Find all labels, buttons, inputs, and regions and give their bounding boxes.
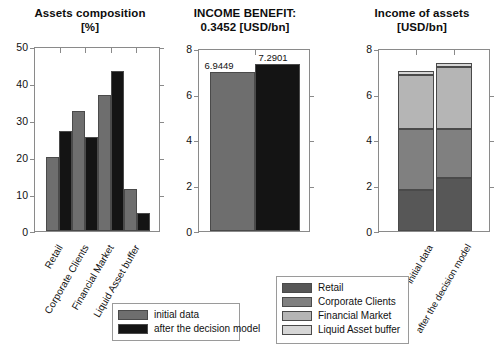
- legend-label-liquid-asset-buffer: Liquid Asset buffer: [318, 324, 400, 335]
- stack-initial-data: [398, 72, 434, 231]
- chart2-ytick-0: [194, 232, 199, 233]
- legend-swatch-corporate-clients: [282, 297, 312, 307]
- chart3-ytick-r-2: [489, 187, 494, 188]
- chart1-ytick-50: [30, 48, 35, 49]
- chart1-xtick-2: [85, 48, 86, 53]
- chart1-ytick-0: [30, 232, 35, 233]
- chart2-plot-area: [198, 49, 310, 232]
- legend-swatch-financial-market: [282, 311, 312, 321]
- legend-swatch-liquid-asset-buffer: [282, 325, 312, 335]
- bar-financial-initial: [98, 95, 111, 231]
- bar-financial-after: [111, 71, 124, 231]
- chart2-ytick-6: [194, 96, 199, 97]
- chart1-ylabel-50: 50: [4, 41, 28, 53]
- chart2-ylabel-2: 2: [172, 180, 192, 192]
- chart1-ytick-30: [30, 122, 35, 123]
- chart1-ytick-40: [30, 85, 35, 86]
- legend-item-financial-market[interactable]: Financial Market: [282, 309, 403, 322]
- chart2-ylabel-6: 6: [172, 89, 192, 101]
- chart3-title-line1: Income of assets: [375, 7, 470, 19]
- chart1-xtick-4: [136, 48, 137, 53]
- seg-initial-retail: [398, 190, 434, 231]
- chart2-title-line1: INCOME BENEFIT:: [194, 7, 296, 19]
- chart3-ytick-0: [374, 232, 379, 233]
- chart2-ytick-8: [194, 50, 199, 51]
- legend-label-financial-market: Financial Market: [318, 310, 391, 321]
- chart1-ylabel-10: 10: [4, 189, 28, 201]
- chart2-ytick-4: [194, 141, 199, 142]
- chart3-ytick-4: [374, 141, 379, 142]
- chart2-ylabel-4: 4: [172, 134, 192, 146]
- chart1-ytick-r-40: [159, 85, 164, 86]
- legend-label-initial-data: initial data: [154, 309, 199, 320]
- chart3-ytick-2: [374, 187, 379, 188]
- bar-income-initial: [210, 72, 255, 231]
- chart1-title: Assets composition [%]: [10, 6, 170, 34]
- chart2-ytick-r-2: [309, 187, 314, 188]
- chart3-ylabel-4: 4: [352, 134, 372, 146]
- chart3-title-line2: [USD/bn]: [352, 20, 492, 34]
- legend-asset-classes: Retail Corporate Clients Financial Marke…: [276, 276, 409, 344]
- legend-label-corporate-clients: Corporate Clients: [318, 296, 396, 307]
- legend-item-corporate-clients[interactable]: Corporate Clients: [282, 295, 403, 308]
- bar-liquid-after: [137, 213, 150, 231]
- chart1-ytick-r-50: [159, 48, 164, 49]
- seg-initial-financial: [398, 75, 434, 129]
- bar-corporate-initial: [72, 111, 85, 231]
- chart3-ytick-r-4: [489, 141, 494, 142]
- chart1-ylabel-0: 0: [4, 226, 28, 238]
- chart1-ytick-20: [30, 159, 35, 160]
- chart2-title-line2: 0.3452 [USD/bn]: [170, 20, 320, 34]
- chart1-xtick-3: [111, 48, 112, 53]
- stack-after-model: [436, 64, 472, 231]
- chart3-ylabel-6: 6: [352, 89, 372, 101]
- legend-item-liquid-asset-buffer[interactable]: Liquid Asset buffer: [282, 323, 403, 336]
- chart3-title: Income of assets [USD/bn]: [352, 6, 492, 34]
- chart3-ylabel-2: 2: [352, 180, 372, 192]
- legend-item-initial-data[interactable]: initial data: [118, 308, 234, 321]
- chart2-ylabel-8: 8: [172, 43, 192, 55]
- seg-after-liquid: [436, 63, 472, 67]
- legend-label-after-model: after the decision model: [154, 323, 260, 334]
- seg-initial-corporate: [398, 129, 434, 190]
- chart2-ylabel-0: 0: [172, 226, 192, 238]
- legend-series: initial data after the decision model: [112, 303, 240, 341]
- chart1-ylabel-20: 20: [4, 152, 28, 164]
- bar-retail-after: [59, 131, 72, 231]
- legend-item-retail[interactable]: Retail: [282, 281, 403, 294]
- chart2-ytick-2: [194, 187, 199, 188]
- chart2-ytick-r-4: [309, 141, 314, 142]
- chart1-ylabel-30: 30: [4, 115, 28, 127]
- chart3-ylabel-0: 0: [352, 226, 372, 238]
- chart3-ytick-r-6: [489, 96, 494, 97]
- seg-initial-liquid: [398, 71, 434, 75]
- chart1-ytick-r-30: [159, 122, 164, 123]
- chart3-ytick-6: [374, 96, 379, 97]
- chart1-ytick-r-20: [159, 159, 164, 160]
- seg-after-corporate: [436, 129, 472, 178]
- chart3-xtick-2: [454, 50, 455, 55]
- bar-retail-initial: [46, 157, 59, 231]
- chart2-ytick-r-6: [309, 96, 314, 97]
- seg-after-retail: [436, 178, 472, 231]
- chart1-title-line2: [%]: [10, 20, 170, 34]
- legend-item-after-model[interactable]: after the decision model: [118, 322, 234, 335]
- seg-after-financial: [436, 67, 472, 129]
- chart3-xtick-1: [416, 50, 417, 55]
- legend-label-retail: Retail: [318, 282, 344, 293]
- bar-liquid-initial: [124, 189, 137, 231]
- chart3-ylabel-8: 8: [352, 43, 372, 55]
- chart2-title: INCOME BENEFIT: 0.3452 [USD/bn]: [170, 6, 320, 34]
- legend-swatch-retail: [282, 283, 312, 293]
- bar-corporate-after: [85, 137, 98, 231]
- bar-income-after: [255, 64, 300, 231]
- chart3-plot-area: [378, 49, 490, 232]
- chart1-ytick-r-10: [159, 196, 164, 197]
- chart1-plot-area: [34, 47, 160, 232]
- chart1-title-line1: Assets composition: [34, 7, 145, 19]
- chart3-ytick-8: [374, 50, 379, 51]
- legend-swatch-after-model: [118, 324, 148, 334]
- chart1-ytick-10: [30, 196, 35, 197]
- legend-swatch-initial-data: [118, 310, 148, 320]
- chart1-ylabel-40: 40: [4, 78, 28, 90]
